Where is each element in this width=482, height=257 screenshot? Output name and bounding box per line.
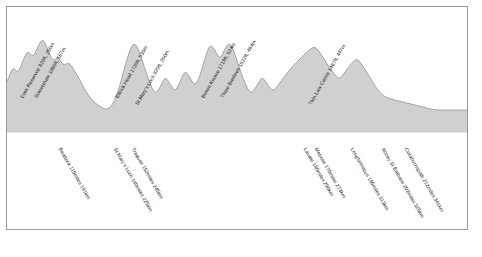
elevation-profile-figure: Daer Reservoir 820ft, 250mSweetshaw 1860… [0,0,482,257]
elevation-area-fill [7,40,467,132]
elevation-profile-chart [0,0,482,257]
